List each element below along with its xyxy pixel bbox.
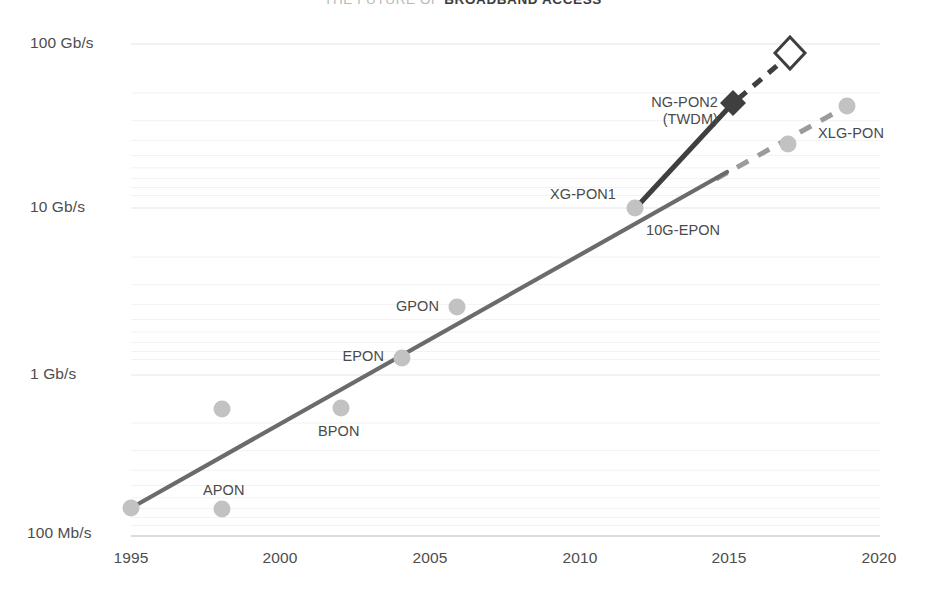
y-tick-100gbs: 100 Gb/s [30,34,94,52]
chart-plot-area [0,0,926,603]
label-xg-pon1: XG-PON1 [496,186,616,203]
label-ng-pon2-line2: (TWDM) [578,111,718,128]
broadband-access-chart: THE FUTURE OF BROADBAND ACCESS [0,0,926,603]
label-10g-epon: 10G-EPON [646,222,720,239]
y-tick-1gbs: 1 Gb/s [30,365,76,383]
label-epon: EPON [279,348,384,365]
x-tick-2015: 2015 [699,549,759,567]
point-1995 [123,500,140,517]
label-bpon: BPON [318,423,360,440]
marker-future-hollow-diamond [775,37,805,69]
x-tick-2010: 2010 [550,549,610,567]
point-xlgpon [839,98,856,115]
point-xgpon1 [627,200,644,217]
point-bpon [333,400,350,417]
x-tick-2020: 2020 [849,549,909,567]
x-tick-1995: 1995 [101,549,161,567]
label-xlg-pon: XLG-PON [818,125,884,142]
gridlines-major [131,44,880,375]
y-tick-10gbs: 10 Gb/s [30,198,85,216]
label-ng-pon2-line1: NG-PON2 [578,94,718,111]
point-xlgpon-mid [780,136,797,153]
gridlines-minor [131,93,880,525]
point-apon [214,501,231,518]
label-apon: APON [203,482,245,499]
series-historical-trend [131,172,727,508]
x-tick-2000: 2000 [250,549,310,567]
label-gpon: GPON [334,298,439,315]
point-1998-622m [214,401,231,418]
point-epon [394,350,411,367]
x-tick-2005: 2005 [400,549,460,567]
point-gpon [449,299,466,316]
y-tick-100mbs: 100 Mb/s [27,524,92,542]
